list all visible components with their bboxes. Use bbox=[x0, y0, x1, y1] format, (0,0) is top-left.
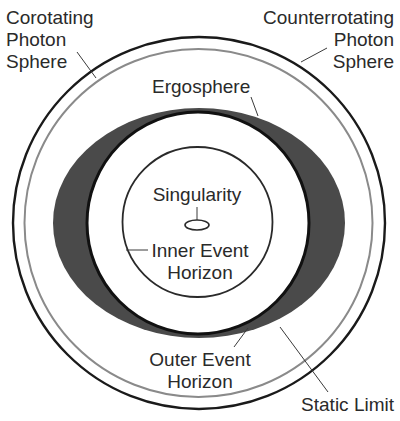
label-line: Ergosphere bbox=[152, 76, 250, 98]
label-line: Horizon bbox=[148, 262, 252, 284]
label-line: Singularity bbox=[147, 184, 247, 206]
label-inner-event-horizon: Inner Event Horizon bbox=[148, 240, 252, 284]
label-line: Static Limit bbox=[301, 394, 394, 416]
label-line: Sphere bbox=[263, 51, 394, 73]
label-line: Photon bbox=[263, 29, 394, 51]
leader-ergosphere bbox=[251, 97, 258, 116]
label-line: Corotating bbox=[6, 7, 94, 29]
label-outer-event-horizon: Outer Event Horizon bbox=[145, 349, 255, 393]
label-line: Photon bbox=[6, 29, 94, 51]
leader-static-limit bbox=[280, 327, 328, 392]
label-ergosphere: Ergosphere bbox=[152, 76, 250, 98]
label-static-limit: Static Limit bbox=[301, 394, 394, 416]
label-singularity: Singularity bbox=[147, 184, 247, 206]
label-line: Sphere bbox=[6, 51, 94, 73]
outer-event-horizon bbox=[87, 112, 309, 334]
label-line: Outer Event bbox=[145, 349, 255, 371]
label-corotating-photon-sphere: Corotating Photon Sphere bbox=[6, 7, 94, 73]
label-line: Counterrotating bbox=[263, 7, 394, 29]
label-line: Horizon bbox=[145, 371, 255, 393]
label-line: Inner Event bbox=[148, 240, 252, 262]
label-counterrotating-photon-sphere: Counterrotating Photon Sphere bbox=[263, 7, 394, 73]
